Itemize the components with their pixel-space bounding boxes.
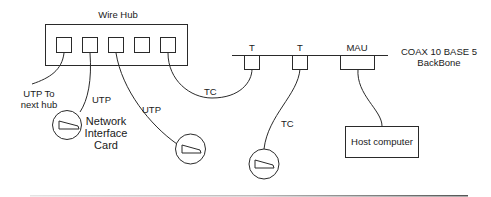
nic-circle-3	[249, 149, 279, 179]
utp-label-2: UTP	[142, 104, 161, 115]
nic-card-icon-3	[255, 160, 274, 168]
nic-card-icon-1	[59, 121, 79, 129]
bottom-rule	[30, 195, 468, 197]
host-computer-label: Host computer	[346, 136, 418, 147]
hub-port-4	[135, 38, 150, 53]
utp-next-hub-label-line2: next hub	[14, 99, 64, 110]
cable-utp-1	[80, 53, 91, 112]
mau-box	[341, 56, 375, 70]
network-diagram	[0, 0, 491, 197]
backbone-label-line2: BackBone	[393, 57, 485, 68]
nic-label-line1: Network	[82, 115, 130, 127]
utp-next-hub-label: UTP To next hub	[14, 88, 64, 110]
nic-label-line2: Interface	[82, 127, 130, 139]
wire-hub-box	[46, 25, 188, 66]
backbone-label: COAX 10 BASE 5 BackBone	[393, 46, 485, 68]
utp-label-1: UTP	[92, 94, 111, 105]
nic-circle-2	[176, 134, 206, 164]
tc-label-2: TC	[281, 118, 294, 129]
tap-t-2	[293, 56, 308, 70]
hub-port-3	[109, 38, 124, 53]
utp-next-hub-label-line1: UTP To	[14, 88, 64, 99]
tap-t-2-label: T	[292, 42, 308, 53]
tap-t-1-label: T	[244, 42, 260, 53]
cable-utp-next-hub	[32, 53, 64, 84]
backbone-label-line1: COAX 10 BASE 5	[393, 46, 485, 57]
cable-tc-2	[264, 69, 300, 149]
nic-card-icon-2	[182, 145, 201, 153]
mau-label: MAU	[338, 42, 376, 53]
wire-hub-title: Wire Hub	[96, 9, 140, 20]
tap-t-1	[245, 56, 260, 70]
hub-port-1	[57, 38, 72, 53]
tc-label-1: TC	[204, 86, 217, 97]
nic-label: Network Interface Card	[82, 115, 130, 151]
cable-mau-host	[358, 69, 382, 126]
hub-port-5	[161, 38, 176, 53]
nic-label-line3: Card	[82, 139, 130, 151]
nic-circle-1	[53, 111, 82, 140]
hub-port-2	[83, 38, 98, 53]
